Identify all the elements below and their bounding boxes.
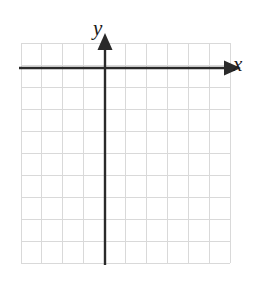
coordinate-grid-figure: y x xyxy=(0,0,257,281)
x-axis-label: x xyxy=(233,54,242,75)
y-axis-label: y xyxy=(93,18,102,39)
coordinate-plane-svg xyxy=(0,0,257,281)
